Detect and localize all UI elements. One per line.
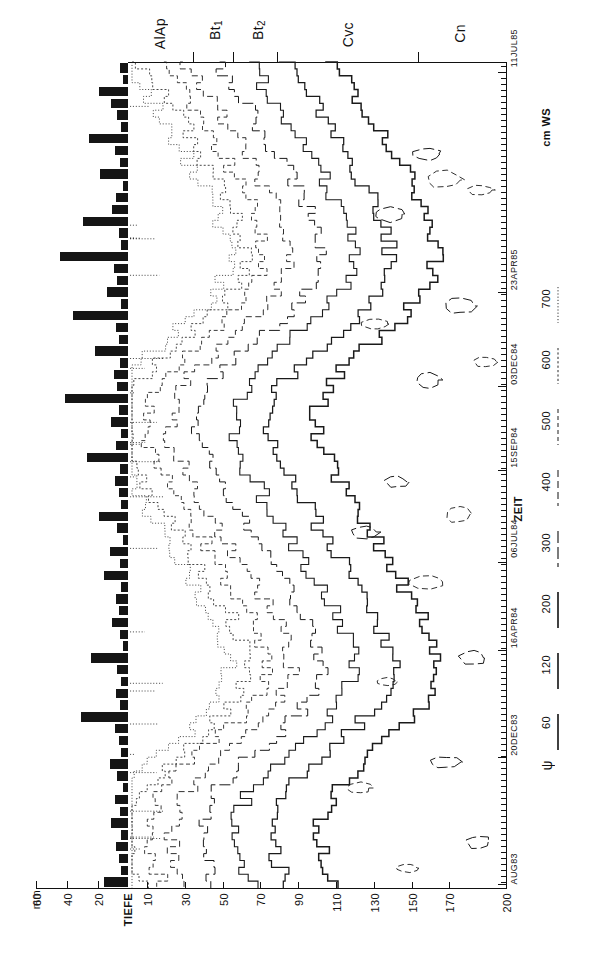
precipitation-bar bbox=[104, 877, 128, 886]
precipitation-bar bbox=[119, 335, 128, 344]
contour-line-600 bbox=[132, 62, 252, 888]
precipitation-bar bbox=[116, 689, 128, 698]
precipitation-bar bbox=[116, 842, 128, 851]
precipitation-bar bbox=[60, 252, 128, 261]
legend-line-sample bbox=[553, 651, 563, 691]
precipitation-bar bbox=[114, 370, 128, 379]
precip-tick bbox=[36, 881, 37, 888]
precipitation-bar bbox=[83, 217, 128, 226]
precipitation-bar bbox=[115, 146, 128, 155]
horizon-label-bt2: Bt2 bbox=[250, 20, 267, 43]
precipitation-bar bbox=[119, 606, 128, 615]
time-tick-label: 16APR84 bbox=[509, 607, 519, 650]
contour-island bbox=[428, 170, 465, 187]
legend-line-sample bbox=[553, 590, 563, 630]
precip-tick-label: 60 bbox=[31, 893, 43, 908]
precip-tick-label: 20 bbox=[93, 893, 105, 908]
precipitation-bar bbox=[110, 547, 128, 556]
contour-island bbox=[446, 298, 478, 313]
contour-island bbox=[447, 507, 472, 523]
precipitation-bar bbox=[100, 169, 128, 178]
precipitation-bar bbox=[117, 276, 128, 285]
depth-tick-label: 110 bbox=[331, 893, 343, 914]
precipitation-bar bbox=[120, 63, 128, 72]
precipitation-bar bbox=[117, 523, 128, 532]
precipitation-bar bbox=[119, 736, 128, 745]
precipitation-bar bbox=[112, 205, 128, 214]
precipitation-bar bbox=[121, 240, 128, 249]
time-axis-line bbox=[506, 62, 507, 888]
precip-tick bbox=[67, 881, 68, 888]
contour-island bbox=[417, 372, 443, 388]
contour-island bbox=[348, 782, 374, 793]
depth-tick-label: 170 bbox=[444, 893, 456, 915]
precipitation-bar bbox=[121, 677, 128, 686]
legend-entry-label: 500 bbox=[540, 411, 552, 433]
contour-island bbox=[466, 837, 489, 849]
precipitation-bar bbox=[117, 665, 128, 674]
precipitation-bar bbox=[117, 771, 128, 780]
isopleth-contour-plot bbox=[128, 62, 506, 888]
time-tick-label: 06JUL84 bbox=[509, 519, 519, 560]
horizon-label-alap: AlAp bbox=[152, 18, 168, 52]
contour-island bbox=[430, 757, 462, 768]
precipitation-bar bbox=[121, 748, 128, 757]
precipitation-bar bbox=[120, 630, 128, 639]
legend-line-sample bbox=[553, 407, 563, 447]
legend-line-sample bbox=[553, 712, 563, 752]
legend-line-sample bbox=[553, 529, 563, 569]
precipitation-bar bbox=[95, 346, 128, 355]
horizon-label-cn: Cn bbox=[452, 24, 468, 46]
contour-island bbox=[361, 319, 389, 329]
precip-axis-line bbox=[36, 888, 128, 889]
time-tick-label: 11JUL85 bbox=[509, 29, 519, 69]
precipitation-bar bbox=[120, 700, 128, 709]
precipitation-bar bbox=[91, 653, 128, 662]
precipitation-bar bbox=[121, 429, 128, 438]
precipitation-bar bbox=[121, 830, 128, 839]
precipitation-bar bbox=[116, 323, 128, 332]
precipitation-bar bbox=[87, 453, 128, 462]
precipitation-bar bbox=[73, 311, 128, 320]
depth-tick-label: 150 bbox=[407, 893, 419, 915]
legend-line-sample bbox=[553, 468, 563, 508]
precipitation-bar bbox=[112, 618, 128, 627]
precipitation-bar bbox=[111, 417, 128, 426]
legend-entry-label: 400 bbox=[540, 472, 552, 494]
precipitation-bar bbox=[110, 759, 128, 768]
depth-axis-label: TIEFE bbox=[122, 893, 134, 928]
precipitation-bar bbox=[116, 441, 128, 450]
contour-svg bbox=[128, 62, 506, 888]
contour-island bbox=[458, 650, 484, 664]
precipitation-bar bbox=[120, 358, 128, 367]
legend-entry-label: 60 bbox=[540, 716, 552, 731]
contour-island bbox=[409, 576, 443, 589]
precipitation-bar bbox=[89, 134, 128, 143]
precipitation-bar bbox=[120, 464, 128, 473]
horizon-label-cvc: Cvc bbox=[340, 22, 356, 50]
contour-island bbox=[474, 357, 498, 366]
precipitation-bar bbox=[116, 594, 128, 603]
depth-tick-label: 10 bbox=[142, 893, 154, 908]
contour-island bbox=[384, 476, 409, 487]
precipitation-bar bbox=[107, 287, 128, 296]
contour-island bbox=[468, 185, 496, 195]
precipitation-bar bbox=[114, 264, 128, 273]
time-tick-label: 20DEC83 bbox=[509, 714, 519, 758]
depth-tick-label: 30 bbox=[180, 893, 192, 908]
contour-island bbox=[413, 148, 441, 160]
precipitation-bar bbox=[115, 476, 128, 485]
legend-unit: cm WS bbox=[540, 108, 552, 149]
legend-line-sample bbox=[553, 285, 563, 325]
precipitation-bar bbox=[119, 488, 128, 497]
depth-tick-label: 130 bbox=[369, 893, 381, 915]
legend-line-sample bbox=[553, 346, 563, 386]
precipitation-bar bbox=[120, 559, 128, 568]
precip-tick bbox=[98, 881, 99, 888]
legend-entry-label: 600 bbox=[540, 350, 552, 372]
time-tick-label: 03DEC84 bbox=[509, 343, 519, 387]
precipitation-bar bbox=[65, 394, 128, 403]
precipitation-bar bbox=[99, 87, 128, 96]
precipitation-bar bbox=[121, 866, 128, 875]
time-tick-label: 23APR85 bbox=[509, 249, 519, 292]
